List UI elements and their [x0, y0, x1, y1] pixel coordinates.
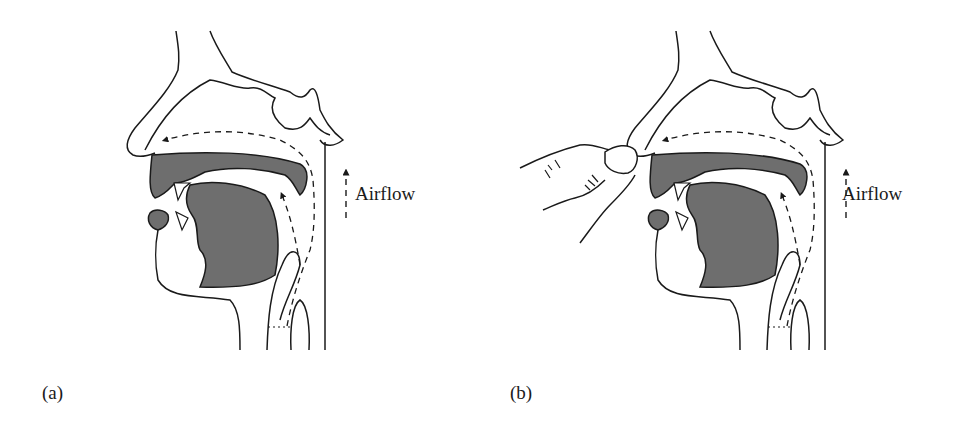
panel-label-a: (a): [42, 382, 63, 404]
vocal-tract-figure: [0, 0, 958, 433]
panel-a-diagram: [127, 31, 346, 350]
airflow-label-a: Airflow: [355, 183, 415, 205]
hand-illustration: [520, 145, 637, 243]
panel-label-b: (b): [510, 382, 532, 404]
panel-b-diagram: [627, 31, 846, 350]
airflow-label-b: Airflow: [842, 183, 902, 205]
